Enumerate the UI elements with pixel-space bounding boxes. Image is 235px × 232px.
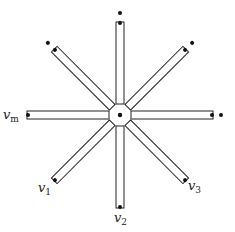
- outer-dot: [45, 40, 51, 46]
- star-graph-diagram: vm v1 v2 v3: [0, 0, 235, 232]
- arm-left: [26, 111, 109, 119]
- arm-bottom-right: [125, 120, 189, 184]
- label-v1: v1: [38, 180, 51, 197]
- outer-dot: [189, 40, 195, 46]
- label-v3: v3: [188, 178, 201, 195]
- arm-bottom-left: [51, 120, 115, 184]
- arm-right: [131, 111, 223, 119]
- arm-top-left: [44, 39, 115, 110]
- arm-bottom: [116, 126, 124, 209]
- label-v2: v2: [114, 210, 127, 227]
- arm-top-right: [125, 39, 196, 110]
- outer-dot: [219, 113, 223, 117]
- center-vertex: [118, 113, 122, 117]
- arm-top: [116, 11, 124, 104]
- label-vm: vm: [3, 107, 19, 124]
- outer-dot: [118, 11, 122, 15]
